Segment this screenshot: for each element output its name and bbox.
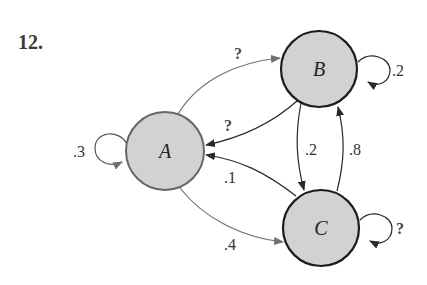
markov-chain-diagram: 12. ? ? .1 .4 .2 .8 .3 .2 ? A B C: [0, 0, 427, 285]
edge-b-to-c: [297, 103, 304, 190]
edge-label-b-to-b: .2: [392, 62, 404, 79]
edge-b-to-a: [206, 101, 297, 145]
node-a: A: [126, 112, 204, 190]
node-a-label: A: [157, 140, 172, 162]
edge-label-a-to-b: ?: [234, 45, 242, 62]
node-b-label: B: [313, 58, 325, 80]
edge-label-b-to-c: .2: [305, 141, 317, 158]
edge-c-to-b: [337, 107, 343, 191]
edge-label-c-to-b: .8: [349, 141, 361, 158]
edge-label-b-to-a: ?: [224, 117, 232, 134]
edge-label-a-to-c: .4: [224, 236, 236, 253]
node-c-label: C: [314, 217, 328, 239]
edge-label-c-to-c: ?: [396, 220, 404, 237]
node-b: B: [281, 31, 357, 107]
edge-a-to-b: [178, 58, 280, 114]
node-c: C: [283, 190, 359, 266]
edge-c-to-a: [206, 155, 296, 196]
self-loop-b: [358, 56, 390, 84]
problem-number: 12.: [18, 31, 43, 53]
self-loop-a: [95, 134, 127, 165]
edge-label-a-to-a: .3: [73, 143, 85, 160]
edge-a-to-c: [180, 188, 283, 242]
edge-label-c-to-a: .1: [224, 169, 236, 186]
self-loop-c: [360, 214, 392, 243]
